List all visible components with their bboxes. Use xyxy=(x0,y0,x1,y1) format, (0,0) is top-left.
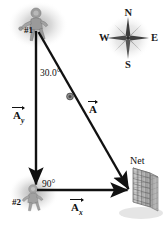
compass-label-south: S xyxy=(125,60,131,71)
label-player-two: #2 xyxy=(12,198,21,207)
vector-diagram-figure: #1 #2 30.0° 90° Net Ay A Ax N E S W xyxy=(0,0,163,226)
ball-on-path-icon xyxy=(67,93,74,100)
label-vector-ax: Ax xyxy=(71,198,83,214)
label-vector-a: A xyxy=(89,100,97,116)
label-net: Net xyxy=(130,156,144,166)
label-angle-90: 90° xyxy=(42,180,55,190)
compass-label-north: N xyxy=(125,8,133,19)
net-object xyxy=(119,168,163,219)
label-angle-30: 30.0° xyxy=(40,69,60,79)
compass-rose-icon xyxy=(105,15,151,61)
label-player-one: #1 xyxy=(24,26,33,35)
compass-label-east: E xyxy=(151,33,158,44)
label-vector-ay: Ay xyxy=(13,106,24,122)
compass-label-west: W xyxy=(99,33,110,44)
